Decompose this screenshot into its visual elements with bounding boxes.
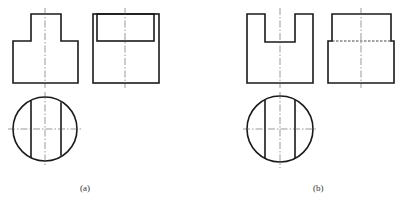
panel-b — [243, 8, 394, 168]
panel-a — [8, 8, 159, 167]
orthographic-drawing-canvas — [0, 0, 401, 208]
panel-b-top-view — [243, 92, 318, 168]
panel-a-side-view — [93, 8, 159, 88]
panel-b-side-view — [328, 8, 394, 88]
panel-b-label: (b) — [313, 183, 324, 193]
panel-a-label: (a) — [80, 183, 90, 193]
panel-a-front-view — [13, 8, 78, 88]
panel-a-top-view — [8, 92, 83, 167]
panel-b-front-view — [247, 8, 313, 88]
